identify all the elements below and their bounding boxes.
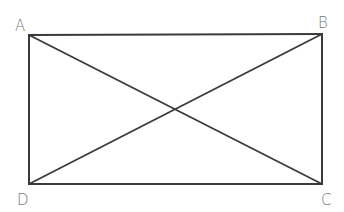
vertex-label-c: C xyxy=(321,191,331,209)
vertex-label-d: D xyxy=(17,191,29,209)
vertex-label-b: B xyxy=(318,14,328,32)
edge-ab xyxy=(29,34,322,35)
vertex-label-a: A xyxy=(15,17,25,35)
rectangle-diagram: A B C D xyxy=(0,0,344,212)
